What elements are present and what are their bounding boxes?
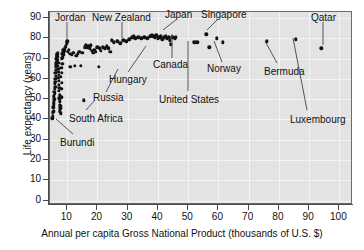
annotation-label-new-zealand: New Zealand: [92, 12, 151, 23]
data-point: [52, 106, 55, 109]
data-point: [97, 65, 100, 68]
annotation-label-bermuda: Bermuda: [264, 66, 305, 77]
y-tick-mark: [43, 78, 48, 79]
data-point: [89, 44, 92, 47]
data-point: [67, 48, 70, 51]
annotation-label-japan: Japan: [165, 9, 192, 20]
x-tick-mark: [308, 205, 309, 210]
x-tick-mark: [248, 205, 249, 210]
data-point: [60, 71, 63, 74]
annotation-label-norway: Norway: [207, 63, 241, 74]
data-point: [82, 98, 85, 101]
annotation-label-qatar: Qatar: [311, 12, 336, 23]
data-point: [59, 105, 62, 108]
data-point: [66, 40, 69, 43]
annotation-label-south-africa: South Africa: [69, 113, 123, 124]
gridline-horizontal: [50, 38, 351, 39]
data-point: [53, 85, 56, 88]
data-point: [59, 66, 62, 69]
gridline-vertical: [279, 12, 280, 203]
gridline-vertical: [188, 12, 189, 203]
data-point: [69, 65, 72, 68]
gridline-vertical: [249, 12, 250, 203]
data-point: [61, 62, 64, 65]
annotation-label-united-states: United States: [159, 94, 219, 105]
data-point: [81, 51, 84, 54]
y-axis-line: [48, 11, 49, 205]
annotation-label-hungary: Hungary: [109, 74, 147, 85]
annotation-label-singapore: Singapore: [201, 9, 247, 20]
data-point: [51, 114, 54, 117]
y-tick-mark: [43, 200, 48, 201]
data-point: [99, 49, 102, 52]
x-axis-title: Annual per capita Gross National Product…: [0, 228, 364, 239]
data-point: [221, 41, 224, 44]
x-tick-mark: [66, 205, 67, 210]
data-point: [265, 40, 268, 43]
y-tick-mark: [43, 37, 48, 38]
plot-area: [49, 11, 352, 204]
x-tick-mark: [157, 205, 158, 210]
annotation-label-luxembourg: Luxembourg: [290, 114, 346, 125]
data-point: [59, 112, 62, 115]
y-axis-title: Life expectancy (years): [22, 14, 33, 194]
gridline-horizontal: [50, 79, 351, 80]
data-point: [58, 99, 61, 102]
data-point: [168, 39, 171, 42]
gridline-vertical: [339, 12, 340, 203]
y-tick-mark: [43, 17, 48, 18]
x-tick-mark: [127, 205, 128, 210]
data-point: [108, 50, 111, 53]
x-tick-label: 100: [320, 211, 356, 222]
data-point: [53, 97, 56, 100]
gridline-vertical: [309, 12, 310, 203]
annotation-label-canada: Canada: [153, 59, 188, 70]
y-tick-mark: [43, 179, 48, 180]
y-tick-mark: [43, 139, 48, 140]
gridline-vertical: [218, 12, 219, 203]
data-point: [320, 47, 323, 50]
data-point: [196, 41, 199, 44]
y-tick-mark: [43, 98, 48, 99]
x-tick-mark: [278, 205, 279, 210]
annotation-label-burundi: Burundi: [60, 137, 94, 148]
data-point: [118, 42, 121, 45]
y-tick-mark: [43, 118, 48, 119]
data-point: [294, 38, 297, 41]
scatter-plot-figure: 0102030405060708090 10203040506070809010…: [0, 0, 364, 250]
data-point: [169, 43, 172, 46]
data-point: [52, 110, 55, 113]
gridline-horizontal: [50, 140, 351, 141]
data-point: [208, 46, 211, 49]
x-tick-mark: [187, 205, 188, 210]
data-point: [60, 87, 63, 90]
annotation-label-russia: Russia: [93, 92, 124, 103]
gridline-horizontal: [50, 160, 351, 161]
gridline-vertical: [158, 12, 159, 203]
data-point: [205, 33, 208, 36]
data-point: [56, 51, 59, 54]
gridline-vertical: [97, 12, 98, 203]
data-point: [73, 64, 76, 67]
x-tick-mark: [338, 205, 339, 210]
data-point: [79, 64, 82, 67]
annotation-label-jordan: Jordan: [55, 12, 86, 23]
x-tick-mark: [217, 205, 218, 210]
x-tick-mark: [96, 205, 97, 210]
gridline-horizontal: [50, 201, 351, 202]
y-tick-label: 0: [11, 195, 41, 205]
gridline-horizontal: [50, 180, 351, 181]
y-tick-mark: [43, 58, 48, 59]
data-point: [60, 81, 63, 84]
gridline-horizontal: [50, 59, 351, 60]
y-tick-mark: [43, 159, 48, 160]
